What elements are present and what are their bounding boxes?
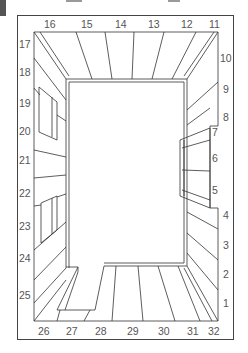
panel-label: 7 — [212, 126, 218, 138]
panel-label: 19 — [19, 97, 31, 109]
panel-label: 26 — [38, 325, 50, 337]
panel-label: 29 — [127, 325, 139, 337]
panel-label: 25 — [19, 289, 31, 301]
back-wall-outline — [66, 79, 187, 268]
panel-label: 12 — [181, 18, 193, 30]
panel-label: 3 — [223, 239, 229, 251]
panel-label: 17 — [19, 38, 31, 50]
corner-top-left — [34, 32, 69, 79]
panel-label: 24 — [19, 252, 31, 264]
panel-label: 10 — [220, 52, 232, 64]
panel-label: 8 — [223, 111, 229, 123]
room-outline — [34, 32, 218, 321]
back-wall-inner-line — [69, 82, 184, 268]
panel-label: 20 — [19, 125, 31, 137]
panel-label: 31 — [187, 325, 199, 337]
panel-label: 28 — [95, 325, 107, 337]
top-labels: 16 15 14 13 12 11 — [44, 18, 220, 30]
panel-label: 16 — [44, 18, 56, 30]
left-window-upper — [39, 87, 57, 140]
panel-label: 4 — [223, 209, 229, 221]
right-labels: 10 9 8 7 6 5 4 3 2 1 — [212, 52, 232, 309]
panel-label: 23 — [19, 220, 31, 232]
floor-step — [57, 266, 104, 310]
right-bay — [180, 128, 210, 208]
bottom-labels: 26 27 28 29 30 31 32 — [38, 325, 220, 337]
panel-label: 5 — [212, 184, 218, 196]
panel-label: 14 — [115, 18, 127, 30]
panel-label: 2 — [223, 268, 229, 280]
panel-label: 1 — [223, 297, 229, 309]
left-window-lower — [41, 196, 57, 243]
panel-label: 11 — [209, 18, 220, 30]
corner-top-right — [184, 32, 218, 79]
panel-label: 18 — [19, 66, 31, 78]
panel-label: 9 — [223, 83, 229, 95]
panel-label: 22 — [19, 187, 31, 199]
panel-label: 15 — [81, 18, 93, 30]
panel-label: 32 — [208, 325, 220, 337]
panel-label: 6 — [212, 152, 218, 164]
panel-label: 30 — [158, 325, 170, 337]
left-labels: 17 18 19 20 21 22 23 24 25 — [19, 38, 31, 301]
panel-label: 21 — [19, 154, 31, 166]
room-diagram: 16 15 14 13 12 11 17 18 19 20 21 22 23 2… — [0, 0, 248, 353]
panel-label: 13 — [148, 18, 160, 30]
panel-label: 27 — [66, 325, 78, 337]
floor-panel-lines — [57, 266, 200, 321]
ceiling-panel-lines — [76, 32, 196, 79]
